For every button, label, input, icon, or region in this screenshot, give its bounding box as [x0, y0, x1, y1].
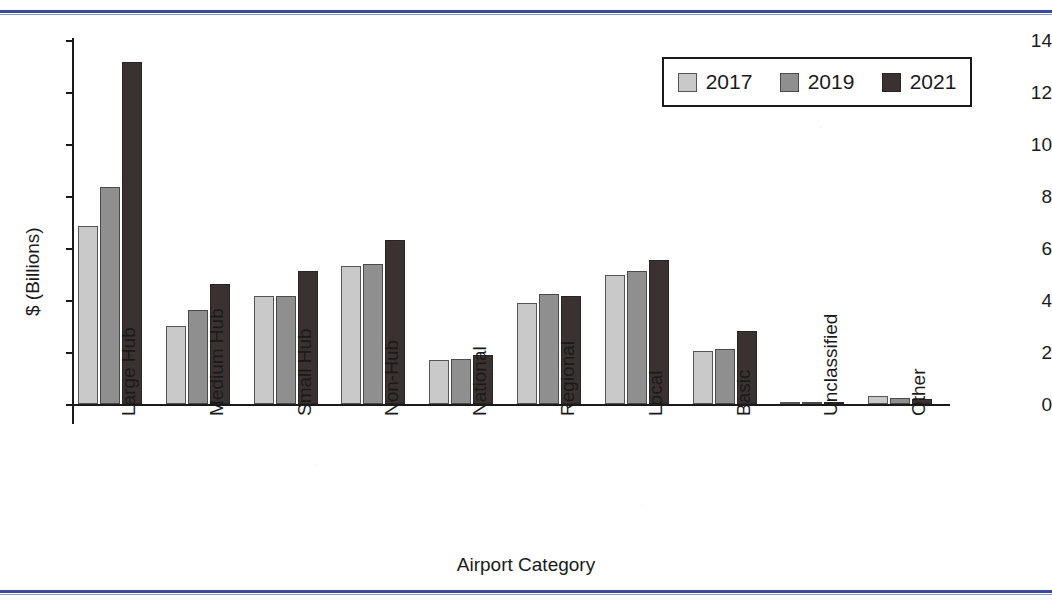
legend-label: 2021 [910, 70, 957, 94]
legend-item: 2021 [882, 70, 957, 94]
bar [254, 296, 274, 404]
x-category-label: Non-Hub [381, 340, 403, 416]
chart-legend: 201720192021 [662, 57, 972, 107]
bar [188, 310, 208, 404]
x-category-label: Basic [733, 370, 755, 416]
y-axis-title: $ (Billions) [22, 227, 44, 316]
legend-label: 2017 [706, 70, 753, 94]
bar-group [605, 18, 669, 406]
top-divider-rule [0, 10, 1052, 13]
y-tick-label: 0 [1010, 395, 1052, 414]
bar [78, 226, 98, 404]
bar [341, 266, 361, 404]
legend-swatch-icon [882, 73, 901, 92]
y-tick-label: 8 [1010, 187, 1052, 206]
bottom-divider-hairline [0, 594, 1052, 595]
x-category-label: Other [908, 368, 930, 416]
chart-page: 02468101214 $ (Billions) Large HubMedium… [0, 0, 1052, 603]
top-divider-hairline [0, 14, 1052, 15]
x-category-label: Unclassified [820, 314, 842, 416]
x-category-label: Small Hub [294, 328, 316, 416]
x-category-label: Large Hub [118, 327, 140, 416]
bar [693, 351, 713, 404]
bar [166, 326, 186, 404]
bottom-divider-rule [0, 590, 1052, 593]
bar [429, 360, 449, 404]
x-category-label: National [469, 346, 491, 416]
x-category-label: Regional [557, 341, 579, 416]
legend-item: 2019 [780, 70, 855, 94]
y-tick-label: 14 [1010, 31, 1052, 50]
y-tick-label: 10 [1010, 135, 1052, 154]
x-category-label: Local [645, 371, 667, 416]
bar-chart: 02468101214 $ (Billions) Large HubMedium… [0, 16, 1052, 586]
legend-swatch-icon [678, 73, 697, 92]
bar [539, 294, 559, 405]
y-tick-label: 4 [1010, 291, 1052, 310]
bar [517, 303, 537, 404]
y-tick-label: 2 [1010, 343, 1052, 362]
x-category-label: Medium Hub [206, 308, 228, 416]
legend-label: 2019 [808, 70, 855, 94]
bar [276, 296, 296, 404]
y-tick-label: 6 [1010, 239, 1052, 258]
bar [868, 396, 888, 404]
bar [627, 271, 647, 404]
bar [780, 402, 800, 404]
bar [100, 187, 120, 404]
bar [605, 275, 625, 404]
x-axis-title: Airport Category [0, 554, 1052, 576]
legend-item: 2017 [678, 70, 753, 94]
bar [715, 349, 735, 404]
legend-swatch-icon [780, 73, 799, 92]
y-tick-label: 12 [1010, 83, 1052, 102]
